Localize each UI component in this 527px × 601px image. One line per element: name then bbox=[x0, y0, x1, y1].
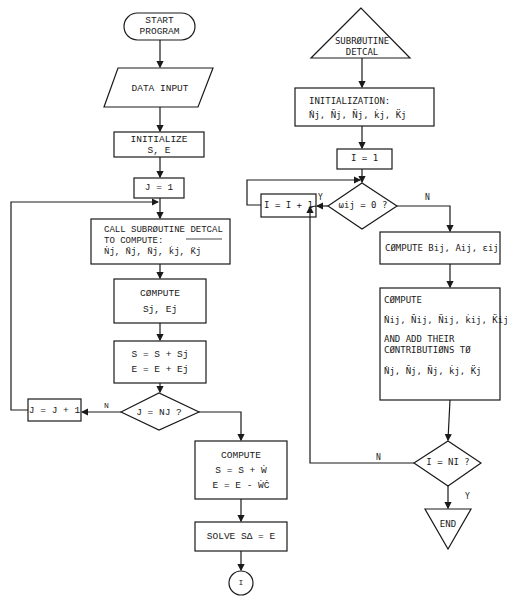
decision-j-no-label: N bbox=[104, 400, 109, 411]
decision-j-label: J = NJ ? bbox=[136, 407, 182, 418]
decision-i-no-label: N bbox=[376, 452, 381, 463]
decision-i-yes-label: Y bbox=[465, 491, 470, 502]
i-increment-node: I = I + 1 bbox=[261, 200, 316, 211]
start-terminal: START PROGRAM bbox=[124, 15, 195, 37]
initialize-node: INITIALIZE S, E bbox=[114, 134, 204, 156]
initialize-label: INITIALIZE bbox=[114, 134, 204, 145]
connector-label: I bbox=[239, 578, 244, 587]
connector-node: I bbox=[229, 577, 253, 588]
program-label: PROGRAM bbox=[124, 26, 195, 37]
decision-omega-node: ωij = 0 ? bbox=[335, 200, 391, 211]
solve-node: SOLVE SΔ = E bbox=[195, 531, 287, 542]
decision-omega-yes-label: Y bbox=[318, 192, 323, 203]
decision-i-node: I = NI ? bbox=[420, 457, 476, 468]
solve-label: SOLVE SΔ = E bbox=[207, 531, 275, 542]
decision-j-node: J = NJ ? bbox=[128, 407, 190, 418]
decision-i-label: I = NI ? bbox=[426, 457, 469, 467]
compute-contrib-node: CØMPUTE Ṅij, N̄ij, N̈ij, k̇ij, K̈ij AND … bbox=[384, 295, 498, 377]
decision-omega-label: ωij = 0 ? bbox=[339, 200, 388, 210]
compute-contrib-ij-vars: Ṅij, N̄ij, N̈ij, k̇ij, K̈ij bbox=[384, 315, 498, 326]
call-detcal-node: CALL SUBRØUTINE DETCAL TO COMPUTE: Ṅj, N… bbox=[104, 225, 229, 258]
compute-contrib-j-vars: Ṅj, N̄j, N̈j, k̇j, K̈j bbox=[384, 366, 498, 377]
end-label: END bbox=[440, 519, 456, 529]
add-their-label: AND ADD THEIR bbox=[384, 334, 498, 345]
i-init-node: I = 1 bbox=[337, 153, 392, 164]
i-init-label: I = 1 bbox=[351, 153, 378, 163]
call-subroutine-label: CALL SUBRØUTINE bbox=[104, 225, 190, 235]
contributions-to-label: CØNTRIBUTIØNS TØ bbox=[384, 345, 498, 356]
subroutine-label: SUBRØUTINE bbox=[320, 36, 404, 47]
decision-omega-no-label: N bbox=[425, 192, 430, 203]
i-increment-label: I = I + 1 bbox=[264, 200, 313, 210]
start-label: START bbox=[124, 15, 195, 26]
initialization-node: INITIALIZATION: Ṅj, N̄j, N̈j, k̇j, K̈j bbox=[309, 96, 431, 121]
compute-bae-label: CØMPUTE Bij, Aij, εij bbox=[385, 243, 499, 253]
j-increment-node: J = J + 1 bbox=[28, 405, 81, 416]
j-init-node: J = 1 bbox=[134, 182, 184, 193]
compute-final-node: COMPUTE S = S + Ẇ E = E - ẆĊ bbox=[195, 450, 287, 491]
compute-final-s: S = S + Ẇ bbox=[195, 465, 287, 476]
accumulate-node: S = S + Sj E = E + Ej bbox=[114, 349, 206, 375]
detcal-link-label: DETCAL bbox=[190, 225, 222, 235]
compute-final-label: COMPUTE bbox=[195, 450, 287, 461]
data-input-label: DATA INPUT bbox=[131, 83, 188, 94]
initialize-vars: S, E bbox=[114, 145, 204, 156]
end-node: END bbox=[430, 519, 466, 530]
j-increment-label: J = J + 1 bbox=[29, 405, 80, 416]
compute-sj-vars: Sj, Ej bbox=[114, 304, 206, 315]
compute-sj-node: CØMPUTE Sj, Ej bbox=[114, 288, 206, 315]
compute-sj-label: CØMPUTE bbox=[114, 288, 206, 299]
initialization-vars: Ṅj, N̄j, N̈j, k̇j, K̈j bbox=[309, 110, 431, 121]
data-input-node: DATA INPUT bbox=[110, 83, 210, 94]
initialization-label: INITIALIZATION: bbox=[309, 96, 431, 107]
call-detcal-vars: Ṅj, N̄j, N̈j, k̇j, K̈j bbox=[104, 247, 229, 258]
subroutine-start-node: SUBRØUTINE DETCAL bbox=[320, 36, 404, 58]
accumulate-s: S = S + Sj bbox=[114, 349, 206, 360]
to-compute-label: TO COMPUTE: bbox=[104, 236, 229, 247]
compute-final-e: E = E - ẆĊ bbox=[195, 480, 287, 491]
detcal-label: DETCAL bbox=[320, 47, 404, 58]
accumulate-e: E = E + Ej bbox=[114, 364, 206, 375]
compute-contrib-label: CØMPUTE bbox=[384, 295, 498, 306]
j-init-label: J = 1 bbox=[145, 182, 174, 193]
compute-bae-node: CØMPUTE Bij, Aij, εij bbox=[385, 243, 497, 254]
